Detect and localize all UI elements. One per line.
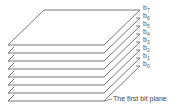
plane-label-b0: b0: [143, 60, 150, 70]
first-bit-plane-caption: The first bit plane: [113, 95, 167, 102]
bit-plane-b1: [8, 58, 140, 93]
bit-plane-b2: [8, 50, 140, 85]
bit-plane-b7: [8, 10, 140, 45]
bit-plane-b3: [8, 42, 140, 77]
